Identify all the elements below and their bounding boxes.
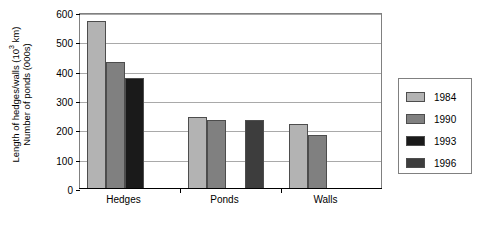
bar-slot <box>188 14 207 188</box>
plot-area: 0100200300400500600 <box>79 13 382 189</box>
bar-slot <box>144 14 163 188</box>
x-axis-label: Walls <box>313 194 337 205</box>
bar[interactable] <box>245 120 264 188</box>
y-axis-tick-label: 500 <box>56 38 73 49</box>
bar-slot <box>289 14 308 188</box>
y-axis-title-line1-pre: Length of hedges/walls (10 <box>10 49 21 163</box>
bar[interactable] <box>106 62 125 188</box>
y-axis-tick-label: 0 <box>67 185 73 196</box>
bar-group <box>87 14 163 188</box>
y-axis-tick-label: 400 <box>56 67 73 78</box>
legend-label: 1984 <box>434 92 456 103</box>
bar-slot <box>245 14 264 188</box>
bar-slot <box>346 14 365 188</box>
bar[interactable] <box>207 120 226 188</box>
bar-slot <box>125 14 144 188</box>
bar-slot <box>106 14 125 188</box>
y-axis-title-line1-post: km) <box>10 27 21 45</box>
bar[interactable] <box>125 78 144 188</box>
bar-slot <box>327 14 346 188</box>
bars-layer <box>80 14 381 188</box>
bar-group <box>289 14 365 188</box>
y-axis-tick-label: 600 <box>56 9 73 20</box>
legend-label: 1996 <box>434 158 456 169</box>
x-axis-tick <box>180 189 181 193</box>
x-axis-tick <box>281 189 282 193</box>
legend-swatch <box>406 114 425 124</box>
x-axis-line <box>79 188 382 189</box>
y-axis-title: Length of hedges/walls (103 km) Number o… <box>0 0 40 190</box>
legend-item[interactable]: 1990 <box>406 108 471 130</box>
y-axis-tick <box>76 190 80 191</box>
bar-slot <box>87 14 106 188</box>
bar-group <box>188 14 264 188</box>
bar[interactable] <box>308 135 327 188</box>
bar[interactable] <box>87 21 106 188</box>
bar[interactable] <box>289 124 308 188</box>
bar-slot <box>308 14 327 188</box>
legend: 1984199019931996 <box>398 78 472 174</box>
x-axis-label: Hedges <box>106 194 140 205</box>
y-axis-title-exponent: 3 <box>8 46 15 50</box>
x-axis-label: Ponds <box>210 194 238 205</box>
bar-slot <box>226 14 245 188</box>
legend-swatch <box>406 92 425 102</box>
legend-item[interactable]: 1996 <box>406 152 471 174</box>
y-axis-tick-label: 100 <box>56 155 73 166</box>
legend-label: 1990 <box>434 114 456 125</box>
bar-slot <box>207 14 226 188</box>
legend-label: 1993 <box>434 136 456 147</box>
legend-item[interactable]: 1984 <box>406 86 471 108</box>
legend-swatch <box>406 136 425 146</box>
legend-swatch <box>406 158 425 168</box>
y-axis-tick-label: 200 <box>56 126 73 137</box>
y-axis-tick-label: 300 <box>56 97 73 108</box>
y-axis-title-line2: Number of ponds (000s) <box>22 44 33 146</box>
legend-item[interactable]: 1993 <box>406 130 471 152</box>
bar[interactable] <box>188 117 207 188</box>
bar-chart: Length of hedges/walls (103 km) Number o… <box>0 0 481 233</box>
